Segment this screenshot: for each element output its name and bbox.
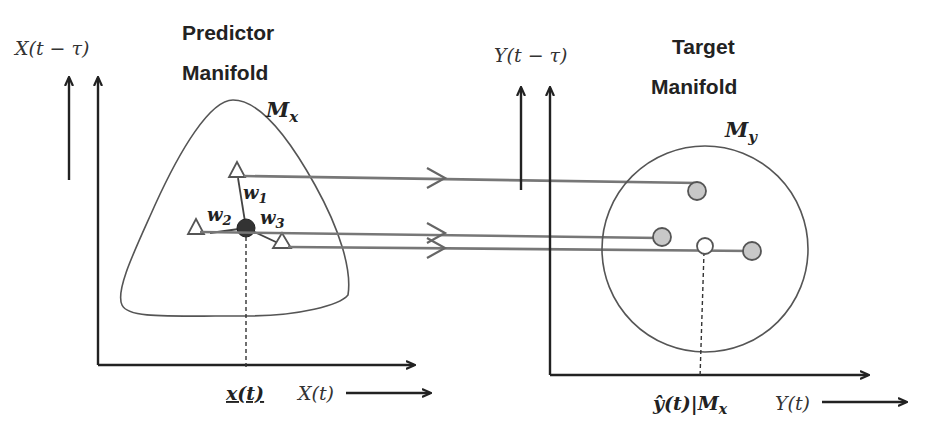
predictor-point-icon bbox=[237, 219, 255, 237]
ccm-diagram: X(t − τ) Predictor Manifold Mx w1 w2 w3 … bbox=[0, 0, 951, 437]
estimate-point-icon bbox=[697, 238, 713, 254]
mapping-line-2 bbox=[200, 232, 660, 238]
predictor-title-line1: Predictor bbox=[182, 21, 274, 44]
predictor-y-axis-label: X(t − τ) bbox=[13, 37, 90, 59]
predictor-manifold-shape bbox=[121, 100, 349, 316]
mapping-line-3 bbox=[288, 247, 752, 251]
target-panel: Y(t − τ) Target Manifold My ŷ(t)|Mx Y(t) bbox=[494, 35, 906, 417]
target-x-axis-label: Y(t) bbox=[775, 392, 810, 414]
target-point-3-icon bbox=[743, 242, 761, 260]
estimate-label: ŷ(t)|Mx bbox=[652, 392, 728, 417]
target-title-line2: Manifold bbox=[651, 75, 737, 98]
w1-label: w1 bbox=[243, 182, 268, 206]
predictor-x-axis-label: X(t) bbox=[296, 382, 334, 404]
target-point-1-icon bbox=[688, 182, 706, 200]
w3-label: w3 bbox=[260, 207, 285, 231]
target-manifold-label: My bbox=[724, 117, 758, 146]
target-y-axis-label: Y(t − τ) bbox=[494, 44, 568, 66]
target-title-line1: Target bbox=[672, 35, 735, 58]
predictor-manifold-label: Mx bbox=[265, 97, 299, 126]
estimate-dashed-line bbox=[700, 252, 704, 378]
predictor-point-label: x(t) bbox=[225, 382, 264, 404]
predictor-panel: X(t − τ) Predictor Manifold Mx w1 w2 w3 … bbox=[13, 21, 430, 404]
predictor-title-line2: Manifold bbox=[182, 61, 268, 84]
target-point-2-icon bbox=[653, 228, 671, 246]
w2-label: w2 bbox=[207, 204, 232, 228]
neighbor-1-icon bbox=[229, 162, 245, 177]
